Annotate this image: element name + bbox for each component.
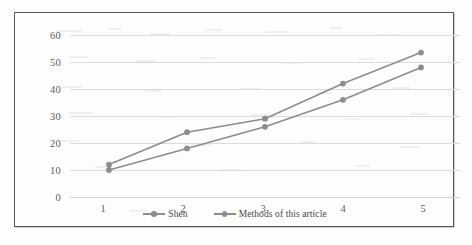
legend-item-shen[interactable]: Shen — [143, 209, 187, 219]
data-point — [262, 116, 268, 122]
y-axis-label-10: 10 — [50, 165, 61, 176]
data-point — [106, 162, 112, 168]
plot-area: 60 50 40 30 20 10 0 1 2 3 4 — [70, 35, 460, 197]
data-point — [184, 129, 190, 135]
y-axis-label-50: 50 — [50, 57, 61, 68]
series-line-methods-of-this-article — [109, 53, 421, 165]
y-axis-label-30: 30 — [50, 111, 61, 122]
chart-frame: 60 50 40 30 20 10 0 1 2 3 4 — [14, 12, 454, 227]
figure-page: 60 50 40 30 20 10 0 1 2 3 4 — [0, 0, 472, 245]
legend-marker-icon — [214, 210, 236, 218]
data-point — [262, 124, 268, 130]
data-point — [418, 65, 424, 71]
data-point — [340, 97, 346, 103]
y-axis-label-40: 40 — [50, 84, 61, 95]
y-axis-label-0: 0 — [56, 192, 61, 203]
legend-marker-icon — [143, 210, 165, 218]
series-plot — [70, 35, 460, 197]
gridline-0: 0 — [70, 197, 460, 198]
chart-legend: Shen Methods of this article — [15, 209, 455, 219]
data-point — [184, 146, 190, 152]
data-point — [106, 167, 112, 173]
legend-item-methods-of-this-article[interactable]: Methods of this article — [214, 209, 327, 219]
data-point — [418, 50, 424, 56]
series-markers-methods-of-this-article — [106, 50, 424, 168]
legend-label-shen: Shen — [168, 209, 187, 219]
legend-label-methods-of-this-article: Methods of this article — [239, 209, 327, 219]
data-point — [340, 81, 346, 87]
y-axis-label-20: 20 — [50, 138, 61, 149]
y-axis-label-60: 60 — [50, 30, 61, 41]
